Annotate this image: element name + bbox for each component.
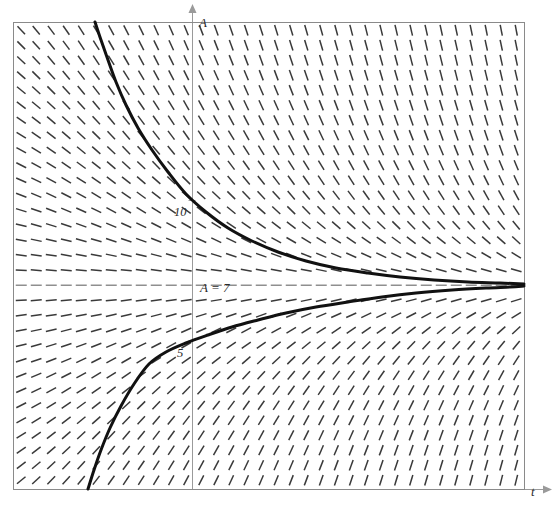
- figure-canvas: A t 10 5 A = 7: [0, 0, 558, 517]
- slope-dash: [61, 300, 72, 301]
- slope-dash: [76, 300, 87, 301]
- slope-dash: [31, 270, 42, 271]
- vertical-axis-label: A: [199, 15, 207, 31]
- axis-tick-label-10: 10: [174, 205, 187, 220]
- horizontal-axis-label: t: [531, 484, 535, 500]
- slope-dash: [16, 300, 27, 301]
- slope-dash: [61, 270, 72, 271]
- equilibrium-label: A = 7: [200, 280, 229, 296]
- slope-dash: [31, 300, 42, 301]
- slope-dash: [76, 270, 87, 271]
- axis-tick-label-5: 5: [177, 346, 183, 361]
- slope-field-plot: [0, 0, 558, 517]
- slope-dash: [46, 300, 57, 301]
- slope-dash: [16, 270, 27, 271]
- slope-dash: [46, 270, 57, 271]
